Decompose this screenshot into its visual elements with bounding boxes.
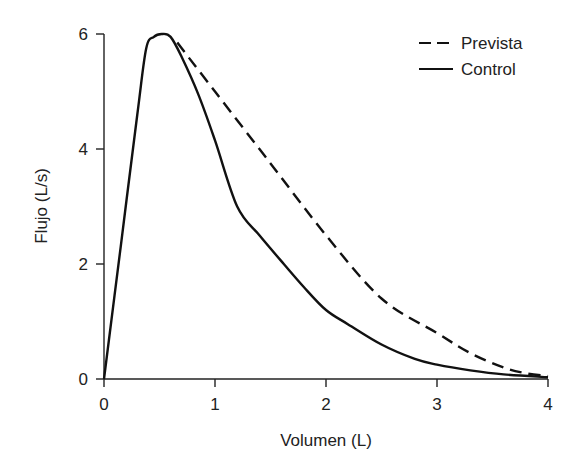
series-prevista-line [177, 43, 548, 377]
y-tick-label: 6 [79, 25, 88, 44]
series-control-line [104, 34, 548, 379]
y-tick-label: 0 [79, 370, 88, 389]
flow-volume-chart: 0246 01234 Volumen (L) Flujo (L/s) Previ… [0, 0, 581, 474]
series-layer [104, 34, 548, 379]
x-tick-label: 3 [432, 395, 441, 414]
x-tick-label: 2 [321, 395, 330, 414]
legend-label-prevista: Prevista [461, 34, 523, 53]
x-ticks: 01234 [99, 379, 552, 414]
plot-area: 0246 01234 [79, 25, 553, 414]
x-tick-label: 0 [99, 395, 108, 414]
y-axis-title: Flujo (L/s) [32, 168, 51, 244]
x-axis-title: Volumen (L) [280, 431, 372, 450]
y-tick-label: 4 [79, 140, 88, 159]
x-tick-label: 4 [543, 395, 552, 414]
legend-label-control: Control [461, 60, 516, 79]
legend: Prevista Control [419, 34, 523, 79]
y-tick-label: 2 [79, 255, 88, 274]
x-tick-label: 1 [210, 395, 219, 414]
y-ticks: 0246 [79, 25, 104, 389]
